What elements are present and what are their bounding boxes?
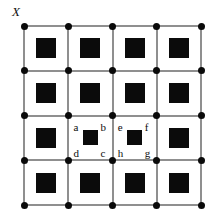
grid-node — [109, 157, 116, 164]
grid-node — [109, 23, 116, 30]
grid-node — [21, 23, 28, 30]
grid-node — [65, 157, 72, 164]
grid-node — [198, 112, 205, 119]
grid-node — [65, 23, 72, 30]
grid-node — [21, 202, 28, 209]
grid-nodes-layer — [0, 0, 212, 219]
grid-node — [65, 202, 72, 209]
grid-node — [153, 112, 160, 119]
grid-node — [21, 112, 28, 119]
grid-node — [153, 202, 160, 209]
grid-node — [198, 202, 205, 209]
grid-node — [198, 67, 205, 74]
grid-node — [109, 202, 116, 209]
grid-node — [153, 157, 160, 164]
grid-node — [65, 112, 72, 119]
grid-node — [109, 112, 116, 119]
grid-node — [153, 23, 160, 30]
grid-node — [109, 67, 116, 74]
grid-node — [198, 157, 205, 164]
lattice-grid-figure: X abcdefgh — [0, 0, 212, 219]
grid-node — [198, 23, 205, 30]
grid-node — [65, 67, 72, 74]
grid-node — [153, 67, 160, 74]
grid-node — [21, 67, 28, 74]
grid-node — [21, 157, 28, 164]
